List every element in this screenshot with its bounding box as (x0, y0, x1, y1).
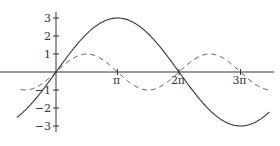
function-plot: 321−1−2−3 π2π3π (0, 0, 280, 146)
y-tick-label: −2 (35, 102, 51, 115)
y-tick-label: 2 (44, 30, 51, 43)
y-tick-label: −3 (35, 120, 51, 133)
x-tick-label: 2π (171, 74, 185, 87)
y-tick-label: 1 (44, 48, 51, 61)
x-tick-label: 3π (232, 74, 246, 87)
x-tick-label: π (113, 74, 120, 87)
y-tick-label: 3 (44, 12, 51, 25)
y-tick-label: −1 (35, 84, 51, 97)
